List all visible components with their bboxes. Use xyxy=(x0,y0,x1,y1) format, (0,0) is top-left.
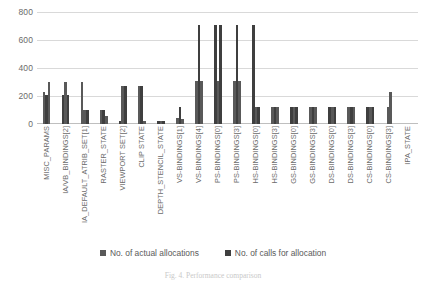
bar xyxy=(143,121,146,124)
bar-group xyxy=(56,12,75,124)
bar-group xyxy=(151,12,170,124)
x-label-cell: RASTER_STATE xyxy=(94,126,113,222)
bar-group xyxy=(189,12,208,124)
x-label-cell: IPA_STATE xyxy=(399,126,418,222)
x-label-cell: IA_DEFAULT_ATRIB_SET[1] xyxy=(75,126,94,222)
bar-group xyxy=(247,12,266,124)
bar-group xyxy=(380,12,399,124)
x-label-cell: GS-BINDINGS[3] xyxy=(304,126,323,222)
x-axis-label: GS-BINDINGS[3] xyxy=(309,126,316,184)
allocation-bar-chart: 0200400600800 MISC_PARAMSIA/VB_BINDINGS[… xyxy=(0,0,426,281)
bar xyxy=(219,25,222,124)
y-axis-tick: 600 xyxy=(0,36,33,45)
bar xyxy=(200,81,203,124)
legend-label: No. of calls for allocation xyxy=(235,249,326,257)
x-axis-label: VS-BINDINGS[1] xyxy=(176,126,183,183)
bar xyxy=(238,81,241,124)
bar-group xyxy=(227,12,246,124)
plot-area: 0200400600800 xyxy=(37,12,418,124)
x-label-cell: HS-BINDINGS[0] xyxy=(247,126,266,222)
bar xyxy=(334,107,337,124)
x-label-cell: VS-BINDINGS[1] xyxy=(170,126,189,222)
x-axis-label: GS-BINDINGS[0] xyxy=(290,126,297,184)
y-axis-tick: 400 xyxy=(0,64,33,73)
x-label-cell: CS-BINDINGS[0] xyxy=(361,126,380,222)
bar-group xyxy=(342,12,361,124)
bar xyxy=(314,107,317,124)
x-axis-label: DS-BINDINGS[3] xyxy=(348,126,355,183)
x-axis-label: DEPTH_STENCIL_STATE xyxy=(157,126,164,214)
bar-group xyxy=(94,12,113,124)
x-axis-label: MISC_PARAMS xyxy=(43,126,50,180)
x-axis-category-labels: MISC_PARAMSIA/VB_BINDINGS[2]IA_DEFAULT_A… xyxy=(37,126,418,222)
x-label-cell: PS-BINDINGS[0] xyxy=(208,126,227,222)
x-axis-label: VS-BINDINGS[4] xyxy=(195,126,202,183)
legend-swatch-icon xyxy=(100,250,106,256)
y-axis-tick: 200 xyxy=(0,92,33,101)
x-axis-label: CS-BINDINGS[3] xyxy=(386,126,393,183)
bar-group xyxy=(304,12,323,124)
bar-group xyxy=(399,12,418,124)
legend-swatch-icon xyxy=(225,250,231,256)
bar xyxy=(162,121,165,124)
bar-group xyxy=(361,12,380,124)
bar xyxy=(67,95,70,124)
x-label-cell: CLIP STATE xyxy=(132,126,151,222)
bar xyxy=(276,107,279,124)
bar-group xyxy=(37,12,56,124)
x-axis-label: HS-BINDINGS[0] xyxy=(252,126,259,183)
x-axis-label: DS-BINDINGS[0] xyxy=(329,126,336,183)
bar xyxy=(353,107,356,124)
bar-group xyxy=(75,12,94,124)
y-axis-tick: 800 xyxy=(0,8,33,17)
x-label-cell: PS-BINDINGS[3] xyxy=(227,126,246,222)
x-axis-label: RASTER_STATE xyxy=(100,126,107,183)
x-label-cell: MISC_PARAMS xyxy=(37,126,56,222)
x-label-cell: IA/VB_BINDINGS[2] xyxy=(56,126,75,222)
x-axis-label: HS-BINDINGS[3] xyxy=(271,126,278,183)
x-label-cell: VS-BINDINGS[4] xyxy=(189,126,208,222)
bar-group xyxy=(208,12,227,124)
x-label-cell: GS-BINDINGS[0] xyxy=(285,126,304,222)
bar xyxy=(257,107,260,124)
figure-caption: Fig. 4. Performance comparison xyxy=(0,271,426,281)
x-label-cell: DS-BINDINGS[3] xyxy=(342,126,361,222)
x-axis-label: CS-BINDINGS[0] xyxy=(367,126,374,183)
x-axis-label: IA/VB_BINDINGS[2] xyxy=(62,126,69,194)
bar xyxy=(86,110,89,124)
bar xyxy=(372,107,375,124)
bar-group xyxy=(285,12,304,124)
bar xyxy=(389,92,392,124)
bar-group xyxy=(132,12,151,124)
chart-legend: No. of actual allocationsNo. of calls fo… xyxy=(0,249,426,257)
bar-group xyxy=(113,12,132,124)
bar xyxy=(48,82,51,124)
legend-item[interactable]: No. of actual allocations xyxy=(100,249,199,257)
x-label-cell: HS-BINDINGS[3] xyxy=(266,126,285,222)
bar xyxy=(181,119,184,124)
legend-label: No. of actual allocations xyxy=(110,249,199,257)
x-axis-label: IA_DEFAULT_ATRIB_SET[1] xyxy=(81,126,88,223)
x-axis-label: VIEWPORT SET[2] xyxy=(119,126,126,191)
bar-group xyxy=(266,12,285,124)
x-axis-label: CLIP STATE xyxy=(138,126,145,168)
x-axis-label: PS-BINDINGS[3] xyxy=(233,126,240,183)
bar xyxy=(105,116,108,124)
x-label-cell: DS-BINDINGS[0] xyxy=(323,126,342,222)
x-label-cell: VIEWPORT SET[2] xyxy=(113,126,132,222)
bar xyxy=(140,86,143,125)
x-axis-label: IPA_STATE xyxy=(405,126,412,165)
bar xyxy=(124,86,127,125)
x-label-cell: CS-BINDINGS[3] xyxy=(380,126,399,222)
x-label-cell: DEPTH_STENCIL_STATE xyxy=(151,126,170,222)
bars-layer xyxy=(37,12,418,124)
bar xyxy=(295,107,298,124)
bar-group xyxy=(170,12,189,124)
y-axis-tick: 0 xyxy=(0,120,33,129)
x-axis-label: PS-BINDINGS[0] xyxy=(214,126,221,183)
legend-item[interactable]: No. of calls for allocation xyxy=(225,249,326,257)
bar-group xyxy=(323,12,342,124)
